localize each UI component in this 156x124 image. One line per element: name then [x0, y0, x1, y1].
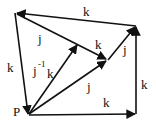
arrow-diagram: k k j j -1 k k j j k k P: [0, 0, 156, 124]
edge-P-C: [29, 114, 135, 115]
label-lower-j: j: [86, 79, 91, 94]
label-upper-j: j: [37, 31, 42, 46]
label-jinv-sup: -1: [38, 59, 46, 69]
label-right-j: j: [122, 42, 127, 57]
edge-B-A: [17, 13, 136, 26]
label-point-p: P: [13, 104, 20, 119]
label-top-k: k: [83, 4, 90, 19]
label-bottom-k: k: [103, 95, 110, 110]
edge-A-P: [15, 13, 28, 114]
label-right-k: k: [141, 77, 148, 92]
label-left-k: k: [7, 60, 14, 75]
diagram-canvas: k k j j -1 k k j j k k P: [0, 0, 156, 124]
edge-N-B: [108, 27, 135, 60]
label-jinv-k: k: [47, 66, 54, 81]
label-mid-k: k: [95, 37, 102, 52]
label-jinv-j: j: [32, 63, 37, 78]
